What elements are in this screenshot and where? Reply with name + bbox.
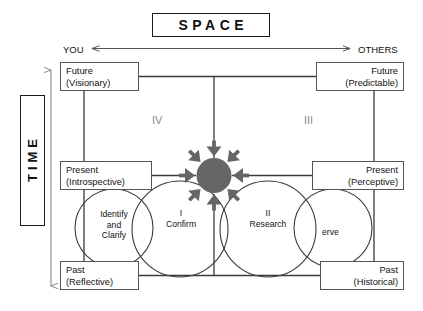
space-title-box: SPACE [152, 13, 270, 37]
time-axis-label-text: TIME [25, 135, 40, 186]
axis-label-you: YOU [63, 44, 84, 55]
space-title-text: SPACE [174, 17, 248, 33]
diagram-canvas: SPACE TIME YOU OTHERS Future (Visionary)… [0, 0, 423, 311]
axis-label-others: OTHERS [358, 44, 398, 55]
time-axis-label-box: TIME [20, 95, 45, 226]
starburst-core [197, 158, 232, 193]
